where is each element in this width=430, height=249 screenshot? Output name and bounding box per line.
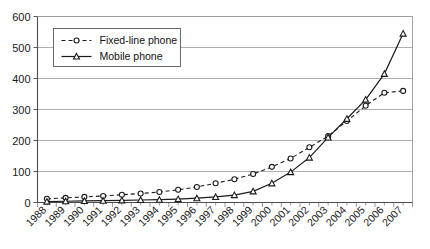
circle-marker <box>157 189 162 194</box>
y-tick-label: 500 <box>12 42 30 54</box>
circle-marker <box>74 38 79 43</box>
circle-marker <box>288 156 293 161</box>
legend-label: Mobile phone <box>100 50 163 62</box>
circle-marker <box>382 90 387 95</box>
y-tick-label: 400 <box>12 73 30 85</box>
y-tick-label: 100 <box>12 166 30 178</box>
legend-label: Fixed-line phone <box>100 34 178 46</box>
y-tick-label: 200 <box>12 135 30 147</box>
y-tick-label: 600 <box>12 11 30 23</box>
circle-marker <box>269 164 274 169</box>
y-tick-label: 300 <box>12 104 30 116</box>
circle-marker <box>307 145 312 150</box>
line-chart: 0100200300400500600 19881989199019911992… <box>0 0 430 249</box>
circle-marker <box>176 187 181 192</box>
chart-legend: Fixed-line phoneMobile phone <box>54 29 181 67</box>
circle-marker <box>401 88 406 93</box>
circle-marker <box>232 177 237 182</box>
chart-screenshot: 0100200300400500600 19881989199019911992… <box>0 0 430 249</box>
circle-marker <box>251 171 256 176</box>
circle-marker <box>363 103 368 108</box>
circle-marker <box>213 181 218 186</box>
circle-marker <box>138 191 143 196</box>
y-tick-label: 0 <box>24 197 30 209</box>
circle-marker <box>194 185 199 190</box>
